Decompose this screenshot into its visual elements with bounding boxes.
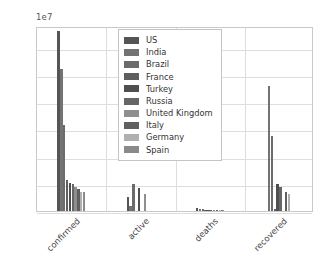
legend-item-france[interactable]: France: [124, 71, 216, 83]
legend-item-brazil[interactable]: Brazil: [124, 58, 216, 70]
gridline-vertical: [245, 28, 246, 211]
legend-item-russia[interactable]: Russia: [124, 95, 216, 107]
legend-label: Russia: [146, 97, 173, 105]
legend[interactable]: USIndiaBrazilFranceTurkeyRussiaUnited Ki…: [118, 29, 222, 161]
y-axis-offset-label: 1e7: [36, 12, 53, 22]
legend-item-us[interactable]: US: [124, 34, 216, 46]
legend-label: Turkey: [146, 85, 173, 93]
bar: [138, 188, 140, 211]
bar: [271, 136, 273, 211]
legend-swatch-icon: [124, 134, 139, 141]
legend-swatch-icon: [124, 85, 139, 92]
bar-group-confirmed: [57, 28, 85, 211]
bar: [132, 184, 134, 211]
bar-group-recovered: [265, 28, 293, 211]
legend-swatch-icon: [124, 146, 139, 153]
legend-item-germany[interactable]: Germany: [124, 132, 216, 144]
gridline-vertical: [106, 28, 107, 211]
legend-label: India: [146, 48, 166, 56]
bar: [221, 210, 223, 211]
legend-item-spain[interactable]: Spain: [124, 144, 216, 156]
x-tick-label-confirmed: confirmed: [44, 216, 82, 254]
legend-label: France: [146, 73, 174, 81]
x-tick-label-active: active: [113, 216, 151, 254]
legend-swatch-icon: [124, 49, 139, 56]
bar: [279, 187, 281, 211]
bar: [144, 194, 146, 211]
bar: [83, 192, 85, 211]
legend-label: Spain: [146, 146, 169, 154]
legend-label: United Kingdom: [146, 109, 213, 117]
legend-swatch-icon: [124, 37, 139, 44]
gridline-horizontal: [37, 213, 312, 214]
legend-swatch-icon: [124, 73, 139, 80]
legend-item-india[interactable]: India: [124, 46, 216, 58]
bar: [288, 194, 290, 211]
legend-label: US: [146, 36, 157, 44]
legend-label: Brazil: [146, 60, 169, 68]
legend-item-united-kingdom[interactable]: United Kingdom: [124, 107, 216, 119]
legend-swatch-icon: [124, 110, 139, 117]
legend-item-turkey[interactable]: Turkey: [124, 83, 216, 95]
legend-label: Germany: [146, 133, 184, 141]
legend-swatch-icon: [124, 61, 139, 68]
legend-swatch-icon: [124, 122, 139, 129]
bar-chart-figure: 1e7 0.00.51.01.52.02.53.0 confirmedactiv…: [0, 0, 327, 268]
legend-swatch-icon: [124, 98, 139, 105]
legend-label: Italy: [146, 121, 164, 129]
legend-item-italy[interactable]: Italy: [124, 119, 216, 131]
x-tick-label-recovered: recovered: [251, 216, 289, 254]
x-tick-label-deaths: deaths: [182, 216, 220, 254]
